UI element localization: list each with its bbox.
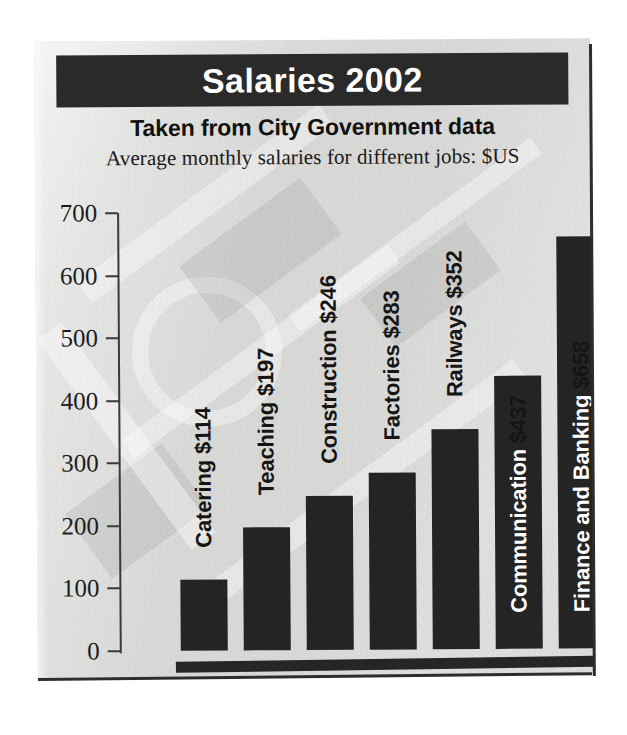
bar-label: Railways $352 [443, 250, 466, 397]
bar-group[interactable]: Construction $246 [306, 496, 354, 650]
bar-label: Factories $283 [380, 290, 403, 440]
bar-label-job: Finance and Banking [568, 395, 594, 613]
bar-group[interactable]: Catering $114 [180, 579, 227, 651]
bar-group[interactable]: Railways $352 [431, 429, 479, 650]
bar-label-value: $437 [505, 395, 530, 449]
bar-label-job: Communication [505, 449, 531, 613]
bar-label: Catering $114 [192, 407, 215, 548]
bar[interactable] [306, 496, 354, 650]
bar-label: Construction $246 [317, 275, 340, 464]
figure-panel: Salaries 2002 Taken from City Government… [34, 38, 594, 677]
bar-group[interactable]: Factories $283 [369, 472, 417, 649]
bar-series: Catering $114Teaching $197Construction $… [34, 38, 594, 677]
bar-group[interactable]: Finance and Banking $658 [556, 237, 594, 649]
bar-label: Teaching $197 [254, 348, 277, 496]
scanned-page: Salaries 2002 Taken from City Government… [0, 0, 627, 735]
bar-label-value: $658 [567, 341, 592, 395]
bar-label: Communication $437 [507, 395, 530, 613]
bar-group[interactable]: Communication $437 [494, 375, 543, 649]
bar[interactable] [243, 527, 291, 651]
plot-area: 0100200300400500600700 Catering $114Teac… [34, 38, 594, 677]
bar[interactable] [369, 472, 417, 649]
bar[interactable] [180, 579, 227, 651]
bar-group[interactable]: Teaching $197 [243, 527, 291, 651]
bar-label: Finance and Banking $658 [569, 341, 593, 613]
bar[interactable] [431, 429, 479, 650]
